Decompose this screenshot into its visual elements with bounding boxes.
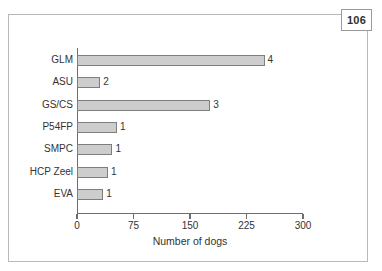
bar-value-label: 3 [213,99,219,110]
chart-page: 106 075150225300 4231111 GLMASUGS/CSP54F… [0,0,382,271]
bar-value-label: 1 [106,188,112,199]
category-label: EVA [0,188,73,199]
x-tick-label: 300 [295,220,312,231]
x-tick-mark [76,214,77,219]
x-tick-mark [133,214,134,219]
category-label: ASU [0,76,73,87]
x-tick-label: 0 [74,220,80,231]
x-axis-title: Number of dogs [153,235,228,247]
bar [77,122,117,133]
x-tick-label: 75 [128,220,139,231]
x-tick-mark [302,214,303,219]
bar-value-label: 4 [268,54,274,65]
page-number-badge: 106 [341,9,372,31]
category-label: P54FP [0,121,73,132]
x-tick-mark [246,214,247,219]
bar-value-label: 1 [111,166,117,177]
bar-value-label: 1 [120,121,126,132]
bar [77,55,265,66]
bar [77,144,112,155]
bar [77,100,210,111]
x-tick-label: 150 [182,220,199,231]
bar [77,77,100,88]
category-label: GLM [0,54,73,65]
bar-value-label: 1 [115,143,121,154]
category-label: HCP Zeel [0,166,73,177]
x-tick-label: 225 [238,220,255,231]
category-label: GS/CS [0,99,73,110]
x-tick-mark [189,214,190,219]
bar-chart-plot: 075150225300 4231111 GLMASUGS/CSP54FPSMP… [0,0,382,271]
page-number-text: 106 [347,14,366,26]
bar-value-label: 2 [103,76,109,87]
category-label: SMPC [0,143,73,154]
bar [77,167,108,178]
bar [77,189,103,200]
